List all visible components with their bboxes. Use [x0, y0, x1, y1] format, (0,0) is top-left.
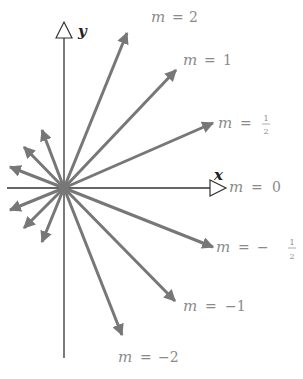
svg-text:−2: −2 — [158, 349, 179, 365]
svg-text:=: = — [205, 298, 217, 314]
svg-text:m: m — [183, 51, 197, 69]
label-m-neg-2: m = −2 — [118, 348, 179, 366]
svg-text:m: m — [183, 297, 197, 315]
label-m-neg-half: m = − 1 2 — [216, 238, 296, 261]
svg-text:=: = — [140, 349, 152, 365]
svg-text:=: = — [172, 9, 184, 25]
svg-text:2: 2 — [189, 9, 198, 25]
svg-text:=: = — [251, 179, 263, 195]
label-m-0: m = 0 — [229, 178, 281, 196]
arrow-m-1 — [64, 70, 176, 188]
svg-text:2: 2 — [263, 127, 268, 136]
svg-text:m: m — [229, 178, 243, 196]
svg-text:1: 1 — [263, 114, 268, 123]
svg-text:1: 1 — [289, 238, 294, 247]
svg-text:−1: −1 — [225, 298, 246, 314]
svg-text:2: 2 — [289, 252, 294, 261]
x-axis-label: x — [213, 166, 224, 184]
svg-text:=: = — [240, 115, 252, 131]
svg-text:m: m — [118, 348, 132, 366]
slope-diagram: y x m = 2 m = 1 m = 1 2 m = 0 m = − 1 2 … — [0, 0, 303, 379]
svg-text:=: = — [204, 52, 216, 68]
y-axis-label: y — [77, 22, 88, 40]
label-m-neg-1: m = −1 — [183, 297, 246, 315]
svg-text:0: 0 — [272, 179, 281, 195]
y-axis-arrowhead-icon — [56, 22, 72, 38]
svg-text:=: = — [238, 239, 250, 255]
label-m-2: m = 2 — [151, 8, 198, 26]
svg-text:m: m — [218, 114, 232, 132]
arrows-unlabeled — [10, 130, 64, 242]
label-m-1: m = 1 — [183, 51, 232, 69]
arrow-m-neg-2 — [64, 188, 122, 335]
svg-text:m: m — [216, 238, 230, 256]
x-axis — [7, 180, 226, 196]
svg-text:m: m — [151, 8, 165, 26]
arrow-m-neg-half — [64, 188, 213, 247]
svg-text:1: 1 — [223, 52, 232, 68]
arrow-m-neg-1 — [64, 188, 175, 301]
svg-text:−: − — [257, 239, 269, 255]
arrows-labeled — [64, 33, 213, 335]
label-m-half: m = 1 2 — [218, 114, 270, 136]
